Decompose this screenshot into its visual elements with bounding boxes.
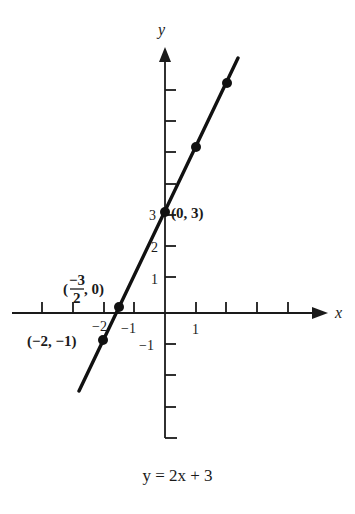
- equation-caption: y = 2x + 3: [0, 466, 355, 486]
- svg-text:(: (: [63, 281, 68, 298]
- y-axis-arrow-icon: [159, 47, 171, 62]
- annotation-y-intercept: (0, 3): [171, 205, 204, 222]
- x-axis-label: x: [334, 304, 342, 321]
- tick-label-y-1: 1: [151, 272, 158, 287]
- point-2-7: [222, 78, 232, 88]
- tick-label-x-1: 1: [192, 322, 199, 337]
- point-x-intercept: [114, 302, 124, 312]
- svg-text:2: 2: [73, 290, 81, 306]
- tick-label-y-2: 2: [151, 240, 158, 255]
- point-1-5: [191, 142, 201, 152]
- line-graph: y x 3 2 1 −1 −2 −1 1 (0, 3) (−2, −1) ( −…: [0, 0, 355, 514]
- y-axis: [165, 62, 177, 438]
- point-y-intercept: [160, 207, 170, 217]
- tick-label-y-3: 3: [149, 208, 156, 223]
- tick-label-x-neg2: −2: [92, 319, 107, 334]
- tick-label-x-neg1: −1: [121, 321, 136, 336]
- svg-text:−3: −3: [69, 272, 85, 288]
- x-axis-arrow-icon: [312, 307, 328, 319]
- tick-label-y-neg1: −1: [139, 338, 154, 353]
- annotation-x-intercept: ( −3 2 , 0): [63, 272, 104, 306]
- y-axis-label: y: [156, 21, 166, 39]
- svg-text:, 0): , 0): [84, 281, 104, 298]
- x-axis: [12, 302, 314, 313]
- annotation-neg2-neg1: (−2, −1): [27, 333, 77, 350]
- point-neg2-neg1: [98, 335, 108, 345]
